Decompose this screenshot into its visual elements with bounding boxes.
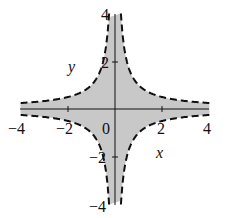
y-tick-label-2: 2: [101, 54, 109, 71]
y-tick-label-neg4: −4: [89, 198, 106, 215]
y-axis-label: y: [66, 58, 76, 76]
hyperbola-region-plot: −4 −2 0 2 4 4 2 −2 −4 y x: [0, 0, 229, 218]
y-tick-label-4: 4: [101, 6, 109, 23]
origin-label: 0: [102, 120, 110, 137]
x-tick-label-2: 2: [157, 120, 165, 137]
axes: [20, 14, 209, 205]
x-tick-label-neg4: −4: [8, 120, 25, 137]
x-axis-label: x: [155, 144, 163, 161]
y-tick-label-neg2: −2: [89, 149, 106, 166]
x-tick-label-neg2: −2: [56, 120, 73, 137]
x-tick-label-4: 4: [203, 120, 211, 137]
